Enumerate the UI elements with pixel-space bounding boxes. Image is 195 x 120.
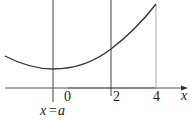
function-graph: 0 2 4 x x = a [0,0,195,120]
tick-label-4: 4 [153,89,160,104]
xa-label-var: x [39,103,47,118]
tick-label-2: 2 [113,89,120,104]
tick-label-0: 0 [64,89,71,104]
function-curve [5,4,156,69]
xa-label-eq: = [49,103,57,118]
axis-label-x: x [180,88,188,103]
xa-label-a: a [58,103,65,118]
